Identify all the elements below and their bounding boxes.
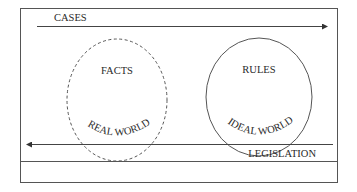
cases-label: CASES [54, 12, 87, 23]
real-world-caption-text: REAL WORLD [86, 116, 152, 138]
real-world-circle [67, 39, 167, 161]
diagram-canvas: CASES FACTS REAL WORLD RULES IDEAL WORLD… [0, 0, 357, 192]
facts-label: FACTS [101, 65, 133, 76]
ideal-world-caption: IDEAL WORLD [226, 114, 295, 137]
legislation-label: LEGISLATION [248, 148, 316, 159]
ideal-world-caption-text: IDEAL WORLD [226, 114, 295, 137]
rules-label: RULES [242, 64, 275, 75]
ideal-world-circle [206, 38, 312, 156]
real-world-caption: REAL WORLD [86, 116, 152, 138]
